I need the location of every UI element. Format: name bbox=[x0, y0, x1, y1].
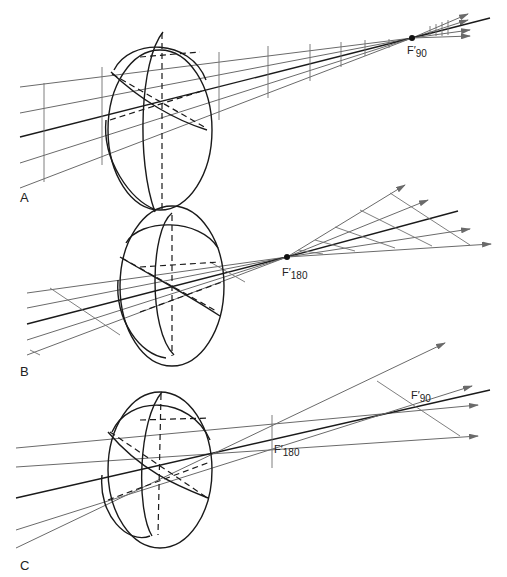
focal-point-dot bbox=[284, 254, 290, 260]
astigmatism-diagram bbox=[0, 0, 507, 577]
panel-label-a: A bbox=[20, 190, 29, 205]
focal-label-c-f90: F′90 bbox=[411, 389, 431, 404]
focal-label-b-f180: F′180 bbox=[282, 266, 307, 281]
focal-label-c-f180: F′180 bbox=[274, 443, 299, 458]
panel-c bbox=[16, 343, 490, 548]
panel-b bbox=[27, 185, 491, 366]
panel-label-b: B bbox=[20, 364, 29, 379]
focal-point-dot bbox=[409, 35, 415, 41]
panel-label-c: C bbox=[20, 558, 29, 573]
focal-label-a-f90: F′90 bbox=[407, 44, 427, 59]
